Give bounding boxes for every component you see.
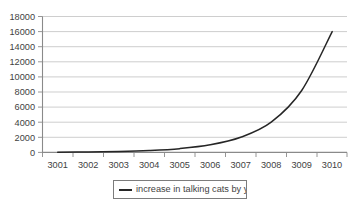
x-axis-label-3001: 3001 xyxy=(47,160,67,170)
y-axis-label-0: 0 xyxy=(30,148,35,158)
chart-canvas: 18000 16000 14000 12000 10000 8000 6000 … xyxy=(0,0,360,172)
x-axis xyxy=(42,152,347,157)
x-axis-label-3003: 3003 xyxy=(108,160,128,170)
x-axis-tick-labels: 3001 3002 3003 3004 3005 3006 3007 3008 … xyxy=(47,160,342,170)
y-axis-label-2000: 2000 xyxy=(15,133,35,143)
y-axis-label-18000: 18000 xyxy=(9,12,35,22)
x-axis-label-3008: 3008 xyxy=(261,160,281,170)
y-axis-label-14000: 14000 xyxy=(9,42,35,52)
x-axis-label-3004: 3004 xyxy=(139,160,159,170)
line-chart: 18000 16000 14000 12000 10000 8000 6000 … xyxy=(0,0,360,199)
y-axis-label-16000: 16000 xyxy=(9,27,35,37)
y-axis-label-8000: 8000 xyxy=(15,87,35,97)
y-axis-label-10000: 10000 xyxy=(9,72,35,82)
x-axis-label-3009: 3009 xyxy=(291,160,311,170)
y-axis-label-6000: 6000 xyxy=(15,102,35,112)
y-axis-tick-labels: 18000 16000 14000 12000 10000 8000 6000 … xyxy=(9,12,35,158)
y-gridlines xyxy=(42,17,347,138)
x-axis-label-3010: 3010 xyxy=(322,160,342,170)
y-axis xyxy=(38,17,43,153)
y-axis-label-12000: 12000 xyxy=(9,57,35,67)
x-axis-label-3007: 3007 xyxy=(230,160,250,170)
y-axis-label-4000: 4000 xyxy=(15,118,35,128)
x-axis-label-3002: 3002 xyxy=(78,160,98,170)
legend-label: increase in talking cats by year xyxy=(136,184,247,195)
x-axis-label-3005: 3005 xyxy=(169,160,189,170)
x-axis-label-3006: 3006 xyxy=(200,160,220,170)
chart-legend: increase in talking cats by year xyxy=(113,180,247,199)
plot-area: 18000 16000 14000 12000 10000 8000 6000 … xyxy=(0,0,360,172)
legend-line-swatch-icon xyxy=(119,189,132,191)
